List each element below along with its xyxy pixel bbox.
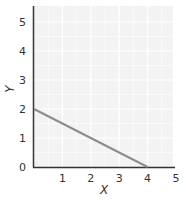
line-chart: 12345 012345 X Y: [0, 0, 186, 201]
y-axis-label: Y: [3, 84, 17, 93]
y-tick-label: 4: [19, 45, 26, 58]
x-tick-label: 5: [173, 172, 180, 185]
y-tick-label: 3: [19, 74, 26, 87]
y-tick-label: 2: [19, 103, 26, 116]
y-tick-label: 5: [19, 16, 26, 29]
x-tick-label: 1: [59, 172, 66, 185]
x-tick-labels: 12345: [59, 172, 180, 185]
y-tick-labels: 012345: [19, 16, 26, 174]
x-tick-label: 3: [116, 172, 123, 185]
x-axis-label: X: [99, 183, 109, 197]
y-tick-label: 0: [19, 161, 26, 174]
x-tick-label: 2: [87, 172, 94, 185]
plot-area: [34, 6, 173, 167]
y-tick-label: 1: [19, 132, 26, 145]
x-tick-label: 4: [144, 172, 151, 185]
